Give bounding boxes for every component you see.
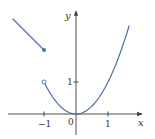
function-graph: −1 0 1 1 x y	[0, 0, 155, 139]
open-endpoint-circle	[42, 80, 46, 84]
x-tick-label-neg1: −1	[38, 119, 51, 129]
plot-curves	[13, 19, 129, 114]
closed-endpoint-dot	[42, 48, 46, 52]
parabola-curve	[44, 26, 129, 114]
y-axis-label: y	[64, 10, 71, 21]
y-tick-label-1: 1	[67, 77, 73, 87]
x-tick-label-1: 1	[105, 119, 111, 129]
origin-label: 0	[68, 117, 74, 127]
line-segment	[13, 19, 44, 50]
x-axis-label: x	[138, 117, 144, 128]
